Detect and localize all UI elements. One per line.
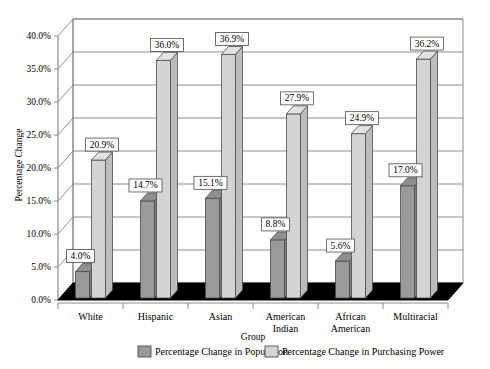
svg-text:24.9%: 24.9% [350, 113, 375, 123]
y-tick-label-1: 5.0% [31, 262, 51, 272]
data-label-population-3: 8.8% [262, 218, 290, 231]
x-category-label-2: Asian [209, 311, 232, 322]
svg-text:15.1%: 15.1% [198, 178, 223, 188]
y-tick-label-4: 20.0% [26, 163, 51, 173]
x-category-label-1: Hispanic [138, 311, 174, 322]
y-tick-label-5: 25.0% [26, 130, 51, 140]
legend-swatch-1 [265, 346, 278, 357]
bar-purchasing-power-2 [222, 46, 243, 298]
svg-text:4.0%: 4.0% [71, 251, 91, 261]
svg-text:27.9%: 27.9% [285, 93, 310, 103]
legend-swatch-0 [138, 346, 151, 357]
y-tick-label-3: 15.0% [26, 196, 51, 206]
svg-text:17.0%: 17.0% [393, 165, 418, 175]
data-label-purchasing-power-1: 36.0% [151, 38, 184, 51]
data-label-purchasing-power-0: 20.9% [86, 138, 119, 151]
x-category-label-4: American [331, 323, 370, 334]
y-tick-label-7: 35.0% [26, 64, 51, 74]
svg-text:14.7%: 14.7% [133, 180, 158, 190]
data-label-purchasing-power-5: 36.2% [411, 37, 444, 50]
data-label-population-1: 14.7% [129, 179, 162, 192]
legend-label-1: Percentage Change in Purchasing Power [282, 346, 445, 357]
y-tick-label-6: 30.0% [26, 97, 51, 107]
x-category-label-0: White [78, 311, 103, 322]
x-category-label-3: Indian [273, 323, 299, 334]
data-label-purchasing-power-4: 24.9% [346, 112, 379, 125]
data-label-population-0: 4.0% [67, 250, 95, 263]
legend-item-1: Percentage Change in Purchasing Power [265, 346, 445, 357]
data-label-population-5: 17.0% [389, 164, 422, 177]
chart-legend: Percentage Change in PopulationPercentag… [138, 346, 445, 357]
svg-text:36.0%: 36.0% [155, 40, 180, 50]
x-category-label-4: African [335, 311, 366, 322]
y-tick-label-0: 0.0% [31, 295, 51, 305]
svg-text:20.9%: 20.9% [90, 140, 115, 150]
y-tick-label-2: 10.0% [26, 229, 51, 239]
y-tick-label-8: 40.0% [26, 31, 51, 41]
percentage-change-3d-column-chart: 4.0%20.9%14.7%36.0%15.1%36.9%8.8%27.9%5.… [0, 0, 490, 369]
svg-text:5.6%: 5.6% [331, 241, 351, 251]
bar-purchasing-power-0 [92, 152, 113, 298]
svg-text:36.9%: 36.9% [220, 34, 245, 44]
y-axis-title: Percentage Change [14, 128, 24, 201]
svg-text:36.2%: 36.2% [415, 39, 440, 49]
data-label-purchasing-power-3: 27.9% [281, 92, 314, 105]
data-label-population-2: 15.1% [194, 176, 227, 189]
bar-purchasing-power-1 [157, 52, 178, 298]
bar-purchasing-power-4 [352, 126, 373, 298]
x-axis-title: Group [241, 332, 266, 342]
svg-text:8.8%: 8.8% [266, 219, 286, 229]
x-category-label-5: Multiracial [393, 311, 438, 322]
data-label-population-4: 5.6% [327, 239, 355, 252]
chart-container: 4.0%20.9%14.7%36.0%15.1%36.9%8.8%27.9%5.… [0, 0, 490, 369]
x-category-label-3: American [266, 311, 305, 322]
data-label-purchasing-power-2: 36.9% [216, 32, 249, 45]
bar-purchasing-power-3 [287, 106, 308, 298]
